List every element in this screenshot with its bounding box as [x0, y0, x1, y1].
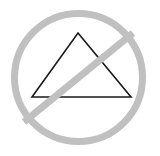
- image-canvas: Prohibition symbol over triangle: [0, 0, 160, 156]
- no-triangle-symbol: Prohibition symbol over triangle: [0, 0, 160, 156]
